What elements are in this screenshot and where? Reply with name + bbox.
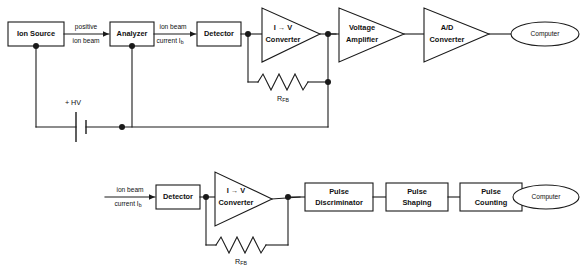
block-ad-converter: A/D Converter	[424, 8, 489, 62]
ad-converter-label-line1: A/D	[441, 23, 454, 32]
ion-source-label: Ion Source	[17, 29, 55, 38]
iv-converter-bottom-label-line2: Converter	[219, 198, 254, 207]
ion-beam-current-bottom-line1: ion beam	[116, 186, 144, 193]
block-iv-converter-top: I → V Converter	[262, 8, 320, 62]
ion-beam-current-bottom-sub: b	[139, 203, 142, 209]
pulse-discriminator-label-line2: Discriminator	[315, 198, 363, 207]
label-ion-beam-current-bottom: ion beam current Ib	[105, 186, 155, 209]
high-voltage-label: + HV	[65, 98, 81, 107]
block-ion-source: Ion Source	[8, 22, 64, 46]
ion-beam-current-top-prefix: current I	[156, 37, 180, 44]
block-pulse-shaping: Pulse Shaping	[386, 183, 448, 211]
voltage-amplifier-label-line1: Voltage	[349, 23, 375, 32]
analyzer-label: Analyzer	[117, 29, 148, 38]
detector-bottom-label: Detector	[163, 192, 193, 201]
iv-converter-bottom-label-line1: I → V	[227, 186, 246, 195]
rfb-bottom-label-sub: FB	[240, 261, 247, 267]
iv-converter-top-label-line1: I → V	[274, 23, 293, 32]
arrowhead-to-detector-bottom	[149, 194, 155, 199]
high-voltage-supply-loop: + HV	[33, 43, 328, 142]
block-pulse-discriminator: Pulse Discriminator	[305, 183, 373, 211]
ion-beam-current-bottom-prefix: current I	[114, 200, 138, 207]
voltage-amplifier-label-line2: Amplifier	[346, 35, 378, 44]
ion-beam-current-top-line1: ion beam	[159, 23, 187, 30]
positive-ion-beam-line2: ion beam	[72, 37, 100, 44]
block-computer-bottom: Computer	[513, 185, 579, 209]
schematic-svg: Ion Source positive ion beam Analyzer io…	[0, 0, 583, 276]
pulse-counting-label-line1: Pulse	[481, 187, 501, 196]
block-analyzer: Analyzer	[110, 22, 154, 46]
arrowhead-to-analyzer	[103, 31, 109, 36]
rfb-top-label-sub: FB	[282, 98, 289, 104]
pulse-shaping-label-line1: Pulse	[407, 187, 427, 196]
ion-beam-current-top-line2: current Ib	[156, 37, 183, 46]
block-voltage-amplifier: Voltage Amplifier	[339, 8, 404, 62]
detector-top-label: Detector	[204, 29, 234, 38]
rfb-top-resistor-zigzag	[258, 74, 308, 90]
block-iv-converter-bottom: I → V Converter	[215, 172, 272, 226]
pulse-shaping-label-line2: Shaping	[402, 198, 432, 207]
ad-converter-label-line2: Converter	[430, 35, 465, 44]
computer-top-label: Computer	[531, 30, 561, 38]
positive-ion-beam-line1: positive	[75, 23, 98, 31]
pulse-counting-label-line2: Counting	[475, 198, 508, 207]
rfb-bottom-resistor-zigzag	[216, 237, 266, 253]
computer-bottom-label: Computer	[532, 193, 562, 201]
block-diagram-canvas: Ion Source positive ion beam Analyzer io…	[0, 0, 583, 276]
ion-beam-current-top-sub: b	[181, 40, 184, 46]
pulse-discriminator-label-line1: Pulse	[329, 187, 349, 196]
ion-beam-current-bottom-line2: current Ib	[114, 200, 141, 209]
rfb-top-label: RFB	[277, 94, 289, 104]
arrowhead-to-detector	[190, 31, 196, 36]
block-detector-bottom: Detector	[156, 185, 200, 209]
label-positive-ion-beam: positive ion beam	[72, 23, 100, 44]
iv-converter-top-label-line2: Converter	[266, 35, 301, 44]
rfb-bottom-label: RFB	[235, 257, 247, 267]
block-detector-top: Detector	[197, 22, 241, 46]
block-computer-top: Computer	[511, 22, 579, 46]
